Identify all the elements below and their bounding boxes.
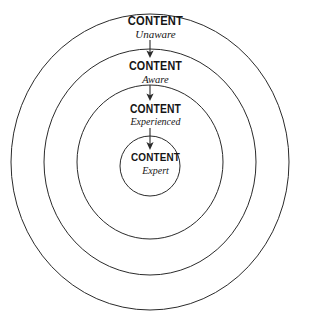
ring-outer-unaware [11,14,289,310]
ring-aware [44,49,256,275]
ring-experienced [77,85,223,239]
arrow-experienced-to-expert [146,128,153,150]
concentric-rings-diagram: CONTENT Unaware CONTENT Aware CONTENT Ex… [0,0,311,325]
rings-canvas [0,0,311,325]
arrow-aware-to-experienced [146,85,153,101]
